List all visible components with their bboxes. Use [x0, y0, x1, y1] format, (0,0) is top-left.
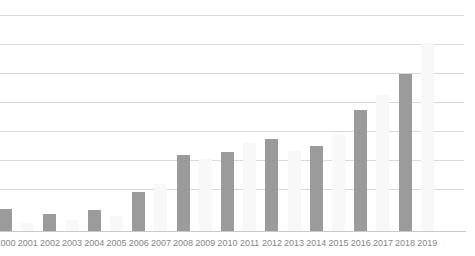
- bar[interactable]: [221, 152, 234, 231]
- bar[interactable]: [0, 209, 12, 231]
- bar[interactable]: [288, 151, 301, 231]
- bar[interactable]: [132, 192, 145, 231]
- bar[interactable]: [177, 155, 190, 231]
- bar[interactable]: [332, 135, 345, 231]
- bar[interactable]: [43, 214, 56, 231]
- bar[interactable]: [243, 143, 256, 231]
- bar[interactable]: [66, 220, 79, 231]
- bar[interactable]: [199, 159, 212, 231]
- bar[interactable]: [354, 110, 367, 231]
- bar[interactable]: [110, 216, 123, 231]
- x-axis-tick-label: 2019: [412, 238, 442, 249]
- bar[interactable]: [21, 223, 34, 231]
- plot-area: [0, 0, 475, 232]
- bar[interactable]: [310, 146, 323, 231]
- bar[interactable]: [154, 184, 167, 231]
- bar[interactable]: [399, 74, 412, 231]
- bar[interactable]: [376, 95, 389, 231]
- bar[interactable]: [88, 210, 101, 231]
- bar-chart: 2000200120022003200420052006200720082009…: [0, 0, 475, 256]
- bar[interactable]: [265, 139, 278, 231]
- bars-layer: [0, 0, 475, 232]
- x-axis-labels: 2000200120022003200420052006200720082009…: [0, 233, 475, 256]
- bar[interactable]: [421, 43, 434, 231]
- x-axis-line: [0, 231, 466, 232]
